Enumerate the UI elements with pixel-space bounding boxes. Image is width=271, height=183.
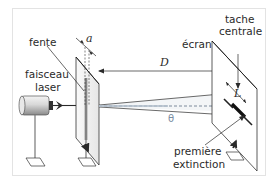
label-centrale: centrale	[219, 25, 262, 37]
slit-plate	[76, 47, 99, 166]
label-extinction: extinction	[173, 158, 225, 170]
label-a: a	[86, 32, 93, 45]
label-tache: tache	[225, 13, 254, 25]
laser	[19, 96, 53, 166]
label-premiere: première	[174, 145, 221, 157]
label-faisceau: faisceau	[25, 68, 69, 80]
label-L: L	[233, 87, 241, 100]
label-theta: θ	[168, 113, 174, 124]
label-D: D	[159, 56, 169, 69]
diffraction-diagram: a fente faisceau laser D θ L tache centr…	[0, 0, 271, 183]
label-laser: laser	[35, 81, 61, 93]
label-ecran: écran	[182, 38, 212, 50]
label-fente: fente	[29, 36, 56, 48]
